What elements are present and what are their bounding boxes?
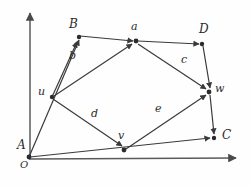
edge-D-w xyxy=(203,46,210,88)
edge-label-d: d xyxy=(91,108,98,119)
vertex-dot-C xyxy=(212,136,216,140)
edge-w-C xyxy=(210,95,214,134)
graph-figure: A B C D u v w a O b c d e xyxy=(0,0,250,189)
node-label-v: v xyxy=(118,130,124,141)
edge-label-b: b xyxy=(69,50,76,61)
edge-a-w xyxy=(138,44,206,89)
node-label-u: u xyxy=(38,86,45,97)
edge-a-D xyxy=(138,41,199,44)
vertex-dot-D xyxy=(200,42,204,46)
vertex-dot-u xyxy=(50,95,54,99)
vertex-label-B: B xyxy=(69,18,78,30)
node-label-a: a xyxy=(131,21,138,32)
edge-B-a xyxy=(80,36,133,41)
edge-u-v xyxy=(53,99,122,146)
origin-label: O xyxy=(20,160,28,170)
node-label-w: w xyxy=(215,83,224,94)
x-axis xyxy=(29,158,236,159)
edge-label-e: e xyxy=(155,103,162,114)
vertex-label-C: C xyxy=(222,129,231,141)
vertex-label-A: A xyxy=(17,139,26,151)
vertex-dot-v xyxy=(122,148,127,153)
vertex-dot-a xyxy=(134,39,139,44)
vertex-dot-w xyxy=(207,90,212,95)
vertex-label-D: D xyxy=(199,23,209,35)
edge-label-c: c xyxy=(181,54,187,65)
edge-v-w xyxy=(126,95,206,149)
vertex-dot-B xyxy=(77,35,81,39)
